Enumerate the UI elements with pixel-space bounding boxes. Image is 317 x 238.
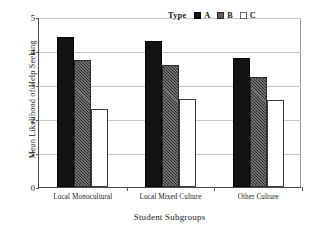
bar-b-3[interactable] [250, 77, 267, 188]
x-tick-mark [127, 187, 128, 191]
legend-item-a[interactable]: A [194, 11, 210, 20]
legend-label: B [227, 11, 232, 20]
bar-group [127, 18, 215, 187]
legend-item-b[interactable]: B [217, 11, 232, 20]
x-tick-mark [302, 187, 303, 191]
bar-a-1[interactable] [57, 37, 74, 187]
y-axis-title: Mean Likelihood of Help Seeking [28, 10, 37, 190]
x-axis-title: Student Subgroups [38, 212, 301, 222]
legend-label: C [250, 11, 256, 20]
legend-swatch-b [217, 12, 224, 19]
bar-group [214, 18, 302, 187]
bar-b-1[interactable] [74, 60, 91, 188]
bar-c-1[interactable] [91, 109, 108, 187]
legend-label: A [204, 11, 210, 20]
y-tick-mark [36, 188, 39, 189]
plot-area: 012345 Local MonoculturalLocal Mixed Cul… [38, 18, 301, 188]
legend-title: Type [168, 11, 186, 20]
y-tick-label: 3 [31, 82, 35, 91]
legend-swatch-c [240, 12, 247, 19]
bar-b-2[interactable] [162, 65, 179, 187]
chart-figure: Mean Likelihood of Help Seeking 012345 L… [0, 0, 317, 238]
bar-c-2[interactable] [179, 99, 196, 187]
x-tick-mark [214, 187, 215, 191]
bar-a-3[interactable] [233, 58, 250, 187]
y-tick-label: 2 [31, 116, 35, 125]
bar-c-3[interactable] [267, 100, 284, 187]
bar-a-2[interactable] [145, 41, 162, 187]
legend: Type ABC [168, 11, 256, 20]
bar-group [39, 18, 127, 187]
x-category-label: Other Culture [238, 193, 279, 201]
y-tick-label: 1 [31, 150, 35, 159]
legend-item-c[interactable]: C [240, 11, 256, 20]
x-category-label: Local Monocultural [53, 193, 112, 201]
x-category-label: Local Mixed Culture [139, 193, 201, 201]
y-tick-label: 4 [31, 48, 35, 57]
y-tick-label: 0 [31, 184, 35, 193]
legend-items: ABC [194, 11, 255, 20]
y-tick-label: 5 [31, 14, 35, 23]
legend-swatch-a [194, 12, 201, 19]
